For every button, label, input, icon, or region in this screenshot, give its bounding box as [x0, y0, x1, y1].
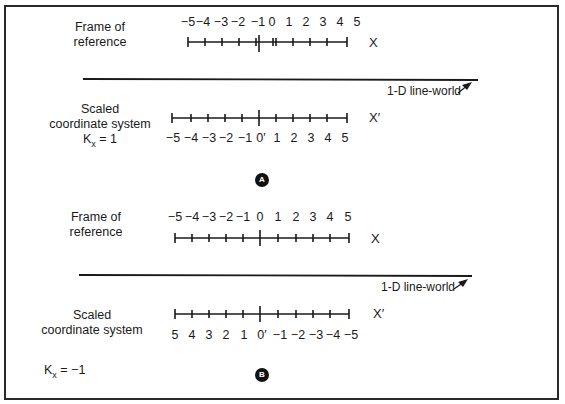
frame-label-line2: reference — [58, 225, 134, 240]
k-value: = −1 — [57, 363, 86, 377]
panel-b-frame-axis-name: X — [371, 231, 380, 246]
tick-label: 5 — [335, 210, 361, 224]
frame-label-line1: Frame of — [58, 210, 134, 225]
panel-a-frame-axis-name: X — [369, 35, 378, 50]
scaled-label-line2: coordinate system — [32, 323, 152, 338]
tick-label: −5 — [338, 328, 364, 342]
scaled-label-line1: Scaled — [32, 308, 152, 323]
panel-b-k-label: Kx = −1 — [44, 363, 85, 383]
panel-a-badge: A — [255, 173, 269, 187]
k-label: Kx = 1 — [40, 132, 160, 152]
tick-label: 5 — [332, 131, 358, 145]
panel-b-frame-label: Frame of reference — [58, 210, 134, 240]
panel-a-frame-axis — [188, 35, 347, 52]
panel-b-badge: B — [255, 368, 269, 382]
k-value: = 1 — [96, 132, 117, 146]
scaled-label-line1: Scaled — [40, 102, 160, 117]
diagram-lines — [0, 0, 565, 404]
panel-a-scaled-axis-name: X′ — [369, 110, 380, 125]
frame-label-line2: reference — [62, 35, 138, 50]
scaled-label-line2: coordinate system — [40, 117, 160, 132]
panel-a-frame-label: Frame of reference — [62, 20, 138, 50]
panel-b-scaled-axis-name: X′ — [373, 306, 384, 321]
panel-b-world-label: 1-D line-world — [381, 280, 455, 294]
tick-label: 5 — [344, 15, 370, 29]
panel-b-scaled-label: Scaled coordinate system — [32, 308, 152, 338]
panel-a-scaled-label: Scaled coordinate system Kx = 1 — [40, 102, 160, 152]
panel-a-world-label: 1-D line-world — [387, 84, 461, 98]
frame-label-line1: Frame of — [62, 20, 138, 35]
